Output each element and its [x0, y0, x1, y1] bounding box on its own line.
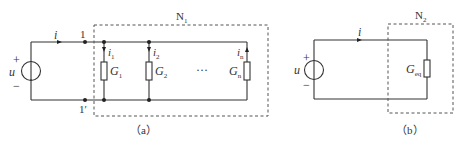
- current-arrow-icon-a: [57, 40, 62, 44]
- node-1prime-label: 1′: [79, 104, 87, 115]
- current-label-a: i: [54, 29, 57, 41]
- ellipsis: ···: [196, 64, 208, 76]
- node-1-dot: [83, 40, 87, 44]
- branch-current-i1: i1: [108, 47, 115, 61]
- current-label-b: i: [358, 26, 361, 38]
- figure-a-wires: [31, 42, 247, 100]
- conductance-g2-label: G2: [155, 65, 167, 80]
- minus-sign-a: −: [13, 80, 20, 92]
- network-n2-label: N2: [415, 10, 426, 24]
- conductance-gn-label: Gn: [229, 65, 241, 80]
- conductor-gn-icon: [244, 62, 250, 80]
- plus-sign-b: +: [303, 52, 310, 64]
- conductance-geq-label: Geq: [406, 63, 421, 78]
- node-1-label: 1: [80, 29, 86, 40]
- caption-a: （a）: [130, 125, 157, 136]
- conductor-g2-icon: [146, 62, 152, 80]
- branch-current-i2: i2: [153, 47, 160, 61]
- branch-current-in: in: [237, 47, 244, 61]
- node-1prime-dot: [83, 98, 87, 102]
- network-n1-label: N1: [176, 11, 187, 25]
- source-label-b: u: [294, 64, 300, 76]
- minus-sign-b: −: [303, 79, 310, 91]
- conductor-g1-icon: [101, 62, 107, 80]
- conductor-geq-icon: [424, 60, 430, 77]
- conductance-g1-label: G1: [110, 65, 122, 80]
- source-label-a: u: [9, 66, 15, 78]
- caption-b: （b）: [396, 125, 424, 136]
